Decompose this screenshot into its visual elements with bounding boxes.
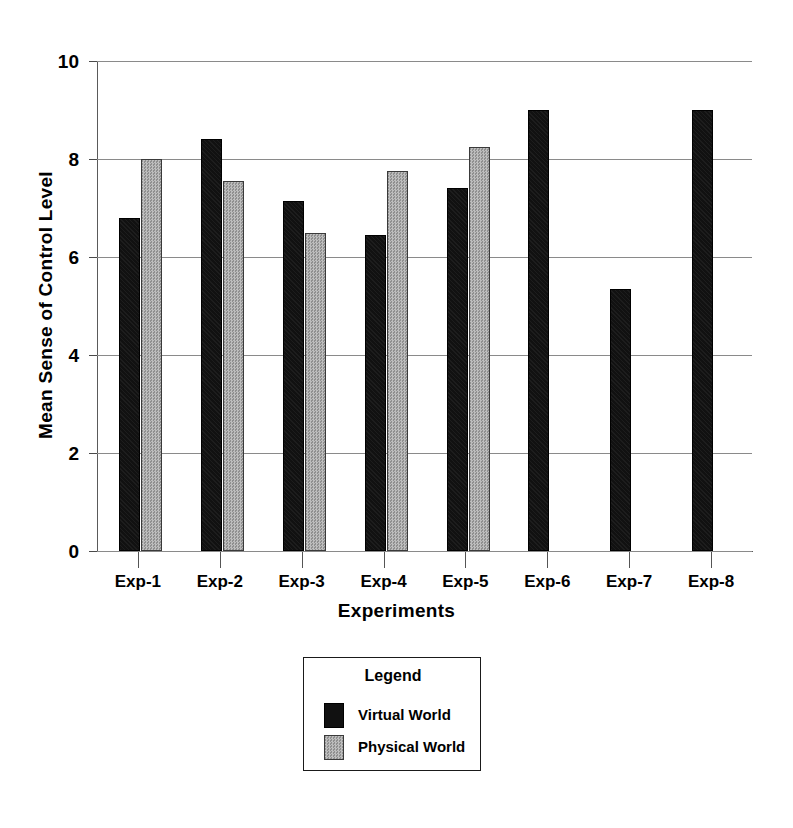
bar-chart-figure: Mean Sense of Control Level 0246810 Exp-… [0,0,793,828]
x-tick-mark [138,552,139,568]
x-tick-mark [465,552,466,568]
x-tick-label-exp-3: Exp-3 [257,572,347,592]
bar-group [588,61,670,551]
plot-area [97,61,752,551]
legend-item-physical-world: Physical World [324,734,474,762]
y-tick-label: 4 [39,346,79,365]
bar-exp-1-virtual-world [119,218,140,551]
legend-label-virtual-world: Virtual World [358,706,451,723]
gridline [97,551,752,552]
x-tick-mark [384,552,385,568]
bar-group [97,61,179,551]
x-tick-mark [711,552,712,568]
legend-label-physical-world: Physical World [358,738,465,755]
x-tick-mark [220,552,221,568]
bar-exp-3-physical-world [305,233,326,552]
x-tick-label-exp-7: Exp-7 [584,572,674,592]
y-tick-label: 10 [39,52,79,71]
y-tick-mark [89,355,97,356]
bar-exp-8-virtual-world [692,110,713,551]
y-tick-label: 6 [39,248,79,267]
bar-exp-1-physical-world [141,159,162,551]
x-tick-mark [629,552,630,568]
legend-item-virtual-world: Virtual World [324,702,474,730]
bar-group [506,61,588,551]
y-tick-label: 8 [39,150,79,169]
gray-square-swatch-icon [324,735,344,760]
x-axis-title: Experiments [0,600,793,622]
legend-title: Legend [304,667,482,685]
x-tick-label-exp-1: Exp-1 [93,572,183,592]
x-tick-mark [547,552,548,568]
bar-group [425,61,507,551]
bar-group [343,61,425,551]
y-tick-mark [89,551,97,552]
x-tick-label-exp-8: Exp-8 [666,572,756,592]
y-tick-mark [89,257,97,258]
bar-exp-3-virtual-world [283,201,304,551]
bar-exp-6-virtual-world [528,110,549,551]
bar-group [261,61,343,551]
x-tick-mark [302,552,303,568]
y-tick-label: 0 [39,542,79,561]
legend-box: Legend Virtual World Physical World [303,657,481,771]
bar-exp-5-physical-world [469,147,490,551]
y-tick-mark [89,61,97,62]
x-tick-label-exp-6: Exp-6 [502,572,592,592]
black-square-swatch-icon [324,703,344,728]
bar-group [670,61,752,551]
bar-group [179,61,261,551]
bar-exp-2-physical-world [223,181,244,551]
y-tick-mark [89,453,97,454]
x-tick-label-exp-4: Exp-4 [339,572,429,592]
bar-exp-4-virtual-world [365,235,386,551]
bar-exp-2-virtual-world [201,139,222,551]
y-tick-mark [89,159,97,160]
bar-exp-7-virtual-world [610,289,631,551]
bar-exp-5-virtual-world [447,188,468,551]
bar-exp-4-physical-world [387,171,408,551]
y-tick-label: 2 [39,444,79,463]
x-tick-label-exp-5: Exp-5 [420,572,510,592]
x-tick-label-exp-2: Exp-2 [175,572,265,592]
